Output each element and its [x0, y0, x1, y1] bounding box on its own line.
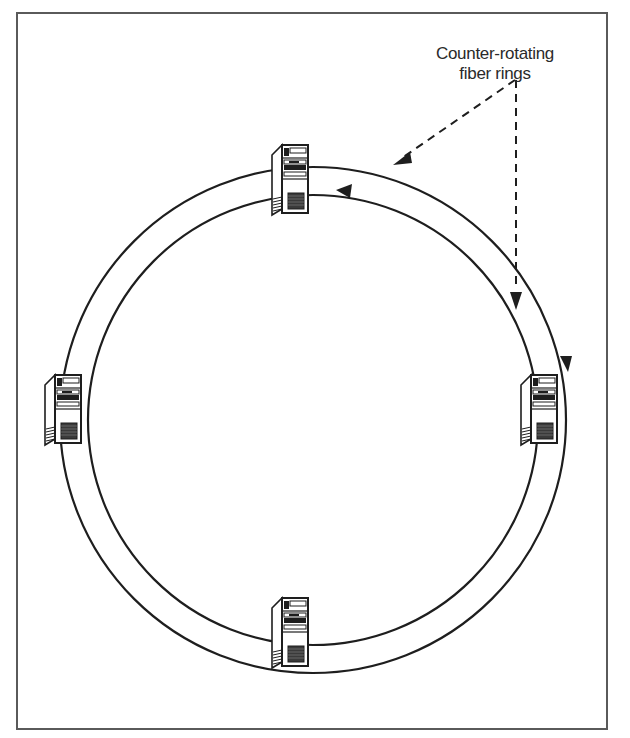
callout-line-2: fiber rings [420, 64, 570, 84]
ring-diagram [0, 0, 630, 738]
computer-top [272, 145, 308, 215]
callout-label: Counter-rotating fiber rings [420, 44, 570, 84]
outer-ring-direction-arrow [440, 200, 566, 370]
inner-fiber-ring [88, 195, 538, 645]
computer-bottom [272, 598, 308, 668]
callout-leader-left [402, 80, 515, 158]
computer-left [45, 375, 81, 445]
computer-right [521, 375, 557, 445]
callout-line-1: Counter-rotating [420, 44, 570, 64]
outer-fiber-ring [60, 167, 566, 673]
callout-arrowhead-left [393, 152, 412, 165]
callout-arrowhead-down [510, 292, 522, 310]
